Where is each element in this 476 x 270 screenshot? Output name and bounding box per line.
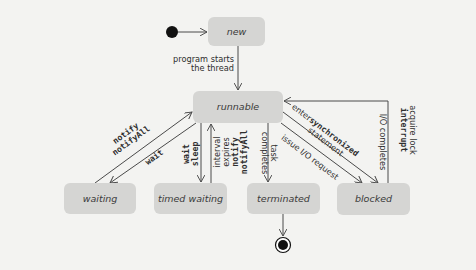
label-wait: wait [143,147,165,167]
label-io-completes: I/O completes [378,114,388,171]
state-terminated-label: terminated [257,193,311,204]
state-runnable[interactable]: runnable [193,91,283,123]
thread-state-diagram: new program starts the thread runnable n… [0,0,476,270]
label-interrupt: interrupt [399,108,409,152]
final-state-inner-icon [278,240,288,250]
label-notifyall-2: notifyAll [239,130,249,174]
edge-waiting-to-runnable [95,112,192,183]
state-new-label: new [227,26,247,37]
state-waiting[interactable]: waiting [64,183,136,214]
label-completes: completes [260,132,270,175]
label-the-thread: the thread [191,63,234,73]
label-sleep: sleep [190,142,200,167]
state-new[interactable]: new [208,17,265,46]
state-timed-waiting[interactable]: timed waiting [154,183,227,214]
state-blocked[interactable]: blocked [337,183,410,215]
state-terminated[interactable]: terminated [247,183,320,214]
state-timed-waiting-label: timed waiting [158,193,223,204]
state-waiting-label: waiting [83,193,118,204]
state-blocked-label: blocked [355,193,393,204]
state-runnable-label: runnable [217,101,259,112]
initial-state-icon [166,26,178,38]
